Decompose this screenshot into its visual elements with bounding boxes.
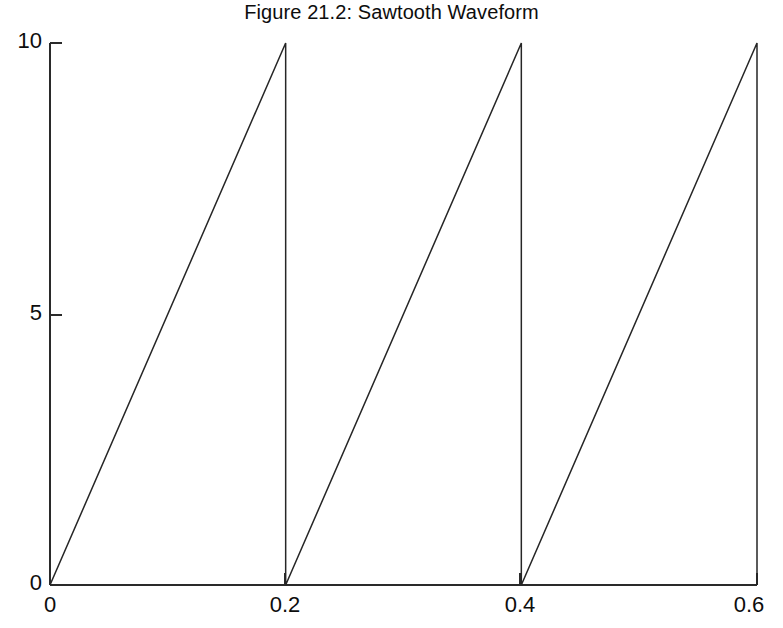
x-tick-label-0p2: 0.2 [252, 592, 318, 618]
sawtooth-data-line [50, 43, 757, 585]
y-tick-label-5: 5 [0, 300, 42, 326]
y-tick-label-10: 10 [0, 28, 42, 54]
x-tick-label-0: 0 [22, 592, 78, 618]
plot-canvas [0, 0, 783, 628]
figure-container: Figure 21.2: Sawtooth Waveform 10 5 0 0 … [0, 0, 783, 628]
x-tick-label-0p6: 0.6 [716, 592, 782, 618]
x-tick-label-0p4: 0.4 [487, 592, 553, 618]
